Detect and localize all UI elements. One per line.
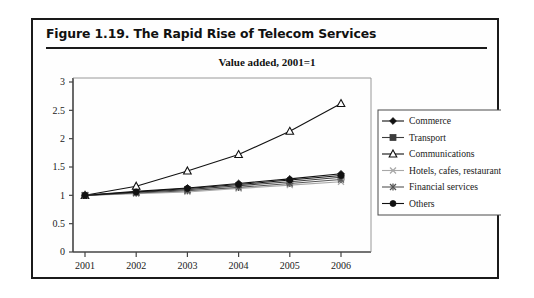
legend-label: Hotels, cafes, restaurants (409, 165, 501, 176)
svg-text:2.5: 2.5 (53, 105, 66, 116)
svg-text:2: 2 (60, 133, 65, 144)
legend-label: Financial services (409, 181, 478, 192)
line-chart: 00.511.522.53200120022003200420052006 Co… (33, 20, 501, 281)
svg-text:0: 0 (60, 246, 65, 257)
svg-text:1.5: 1.5 (53, 161, 66, 172)
svg-text:1: 1 (60, 190, 65, 201)
svg-text:2005: 2005 (280, 260, 300, 271)
figure-container: Figure 1.19. The Rapid Rise of Telecom S… (31, 18, 499, 279)
svg-text:2004: 2004 (229, 260, 249, 271)
legend-label: Communications (409, 148, 475, 159)
svg-text:2006: 2006 (331, 260, 351, 271)
chart-series-layer (81, 100, 345, 199)
svg-text:2003: 2003 (177, 260, 197, 271)
chart-legend: CommerceTransportCommunicationsHotels, c… (378, 110, 501, 215)
svg-text:3: 3 (60, 76, 65, 87)
series-communications (81, 100, 345, 199)
svg-text:0.5: 0.5 (53, 218, 66, 229)
chart-axes: 00.511.522.53200120022003200420052006 (53, 76, 372, 271)
legend-label: Others (409, 198, 435, 209)
legend-label: Transport (409, 132, 446, 143)
svg-text:2001: 2001 (75, 260, 95, 271)
svg-text:2002: 2002 (126, 260, 146, 271)
legend-label: Commerce (409, 115, 451, 126)
